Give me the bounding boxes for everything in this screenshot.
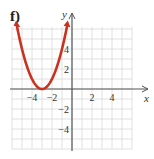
svg-text:4: 4: [64, 44, 69, 55]
svg-text:−2: −2: [47, 92, 58, 103]
svg-text:−4: −4: [27, 92, 38, 103]
svg-text:2: 2: [90, 92, 95, 103]
svg-text:x: x: [143, 92, 149, 104]
svg-text:−4: −4: [58, 124, 69, 135]
parabola-chart: xy −4−224−4−224: [0, 0, 154, 159]
svg-text:2: 2: [64, 64, 69, 75]
svg-text:4: 4: [110, 92, 115, 103]
svg-text:−2: −2: [58, 104, 69, 115]
svg-text:y: y: [61, 8, 67, 20]
